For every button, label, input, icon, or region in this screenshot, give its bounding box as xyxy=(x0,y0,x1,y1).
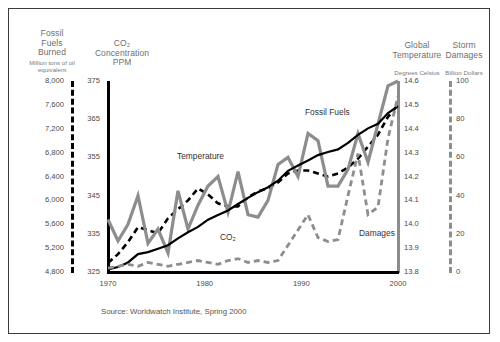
series-label-temperature: Temperature xyxy=(177,152,224,161)
chart-frame: Fossil Fuels Burned Million tons of oil … xyxy=(8,8,490,334)
series-label-fossil-fuels: Fossil Fuels xyxy=(305,108,350,117)
series-label-damages: Damages xyxy=(359,229,395,238)
series-line-damages xyxy=(108,96,398,268)
series-line-co2 xyxy=(108,106,398,269)
series-label-co2: CO₂ xyxy=(220,233,236,242)
source-note: Source: Worldwatch Institute, Spring 200… xyxy=(101,307,246,316)
series-line-temperature xyxy=(108,81,398,253)
chart-plot-area xyxy=(9,9,491,335)
